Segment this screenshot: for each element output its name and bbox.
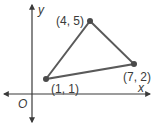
point-1-1	[43, 76, 49, 82]
triangle	[46, 21, 134, 79]
point-4-5	[87, 18, 93, 24]
point-7-2	[131, 61, 137, 67]
origin-label: O	[18, 97, 27, 111]
point-label-1-1: (1, 1)	[51, 82, 79, 96]
y-axis-label: y	[37, 3, 45, 17]
coordinate-plane: y x O (1, 1) (4, 5) (7, 2)	[0, 0, 162, 129]
point-label-7-2: (7, 2)	[123, 70, 151, 84]
point-label-4-5: (4, 5)	[56, 14, 84, 28]
